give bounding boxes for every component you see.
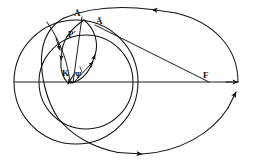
label-apex-bar-point: Ā bbox=[96, 17, 103, 26]
ellipse-arc-left-lower bbox=[41, 58, 58, 118]
loop-right-arrow bbox=[91, 55, 95, 66]
label-p-prime-point: P′ bbox=[68, 30, 76, 39]
ellipse-bottom-arrow bbox=[118, 153, 142, 155]
label-k-point: K bbox=[62, 69, 69, 78]
loop-left-arrow bbox=[61, 50, 62, 60]
ellipse-top-arrow bbox=[152, 10, 176, 14]
label-psi-angle: Ψ bbox=[75, 72, 81, 80]
figure-canvas: Å Ā P′ K Ψ F bbox=[0, 0, 254, 166]
diagram-svg bbox=[0, 0, 254, 166]
focal-ray bbox=[95, 25, 209, 82]
ellipse-arc-bottom-right bbox=[142, 108, 228, 154]
ellipse-right-arrow bbox=[228, 92, 236, 108]
label-apex-point: Å bbox=[74, 9, 81, 18]
label-focus-point: F bbox=[203, 71, 209, 80]
